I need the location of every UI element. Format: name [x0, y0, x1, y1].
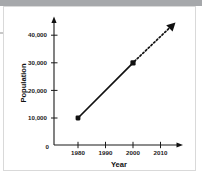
data-point-1980: [76, 116, 81, 121]
x-tick-label-2010: 2010: [154, 149, 168, 156]
series-observed-line: [78, 63, 133, 118]
x-axis-title: Year: [111, 160, 127, 169]
y-tick-label-20000: 20,000: [28, 87, 47, 94]
y-tick-label-40000: 40,000: [28, 31, 47, 38]
y-axis-title: Population: [19, 63, 28, 103]
page-edge-mark: [0, 32, 3, 34]
x-tick-label-1990: 1990: [99, 149, 113, 156]
arrow-right-icon: [177, 142, 184, 147]
series-projected-line: [135, 27, 172, 62]
chart-page: 40,000 30,000 20,000 10,000 0 1980 1990 …: [0, 0, 202, 179]
arrow-up-icon: [51, 17, 56, 24]
x-tick-label-2000: 2000: [126, 149, 140, 156]
population-year-line-chart: 40,000 30,000 20,000 10,000 0 1980 1990 …: [0, 0, 202, 179]
origin-label: 0: [46, 143, 50, 150]
x-tick-label-1980: 1980: [71, 149, 85, 156]
y-tick-label-10000: 10,000: [28, 114, 47, 121]
data-point-2000: [130, 60, 135, 65]
y-tick-label-30000: 30,000: [28, 59, 47, 66]
